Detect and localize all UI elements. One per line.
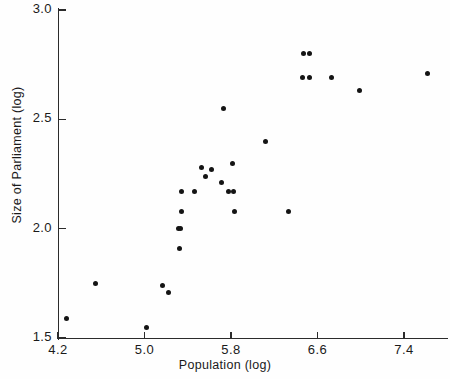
data-point: [166, 290, 171, 295]
data-point: [179, 189, 184, 194]
data-point: [179, 209, 184, 214]
data-point: [203, 174, 208, 179]
data-point: [221, 106, 226, 111]
data-point: [232, 209, 237, 214]
data-point: [178, 226, 183, 231]
data-point: [230, 161, 235, 166]
data-point: [177, 246, 182, 251]
y-axis-title: Size of Parliament (log): [10, 70, 24, 240]
scatter-plot-figure: 1.52.02.53.0 4.25.05.86.67.4 Size of Par…: [0, 0, 450, 379]
data-point: [231, 189, 236, 194]
x-tick-label: 5.0: [115, 342, 175, 357]
data-point: [144, 325, 149, 330]
x-tick-label: 4.2: [28, 342, 88, 357]
y-tick-label: 2.5: [0, 110, 52, 125]
data-point: [425, 71, 430, 76]
x-axis-line: [57, 338, 448, 339]
data-point: [192, 189, 197, 194]
x-tick-label: 5.8: [201, 342, 261, 357]
x-axis-title: Population (log): [0, 358, 450, 372]
x-tick-label: 7.4: [374, 342, 434, 357]
data-point: [286, 209, 291, 214]
data-point: [64, 316, 69, 321]
data-point: [263, 139, 268, 144]
data-point: [219, 180, 224, 185]
y-tick-label: 2.0: [0, 220, 52, 235]
y-tick-label: 3.0: [0, 1, 52, 16]
x-tick-label: 6.6: [288, 342, 348, 357]
plot-area: [58, 10, 404, 338]
